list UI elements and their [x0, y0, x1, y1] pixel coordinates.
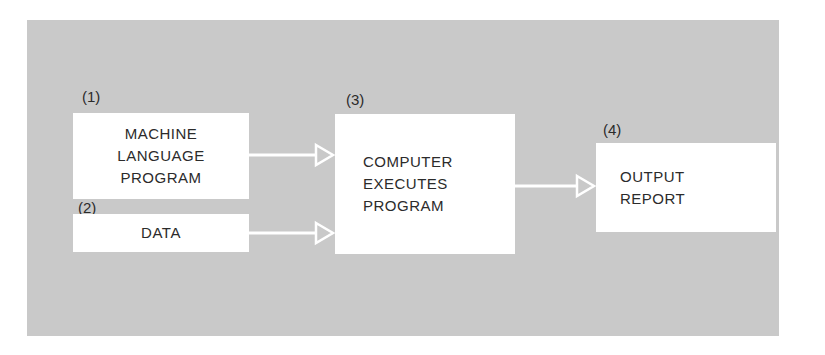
arrow-2-to-3: [249, 223, 333, 243]
arrow-1-to-3: [249, 145, 333, 165]
arrows-layer: [0, 0, 825, 355]
arrow-3-to-4: [515, 176, 594, 196]
